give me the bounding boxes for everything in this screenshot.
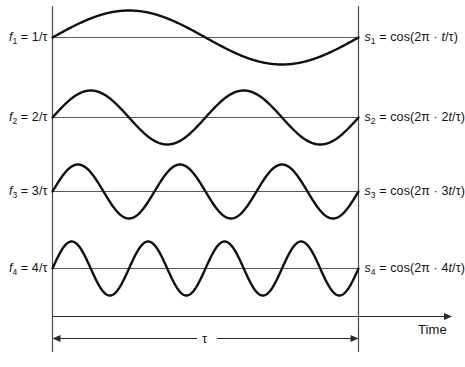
frequency-label-2: f2 = 2/τ	[9, 111, 48, 124]
tau-duration-label: τ	[202, 332, 207, 345]
frequency-label-4: f4 = 4/τ	[9, 262, 48, 275]
frequency-label-3: f3 = 3/τ	[9, 185, 48, 198]
time-axis-label: Time	[418, 323, 447, 336]
signal-label-4: s4 = cos(2π · 4t/τ)	[365, 262, 465, 275]
signal-label-3: s3 = cos(2π · 3t/τ)	[365, 185, 465, 198]
signal-label-1: s1 = cos(2π · t/τ)	[365, 31, 458, 44]
frequency-label-1: f1 = 1/τ	[9, 31, 48, 44]
signal-label-2: s2 = cos(2π · 2t/τ)	[365, 111, 465, 124]
